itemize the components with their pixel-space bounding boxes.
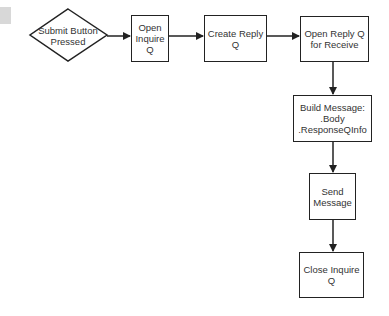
node-create-reply-q: Create Reply Q — [204, 15, 267, 62]
node-open-inquire-q: Open Inquire Q — [131, 15, 169, 62]
node-send-message: Send Message — [309, 173, 356, 220]
node-build-message: Build Message: .Body .ResponseQInfo — [293, 95, 372, 142]
node-open-reply-q-for-receive: Open Reply Q for Receive — [300, 16, 369, 62]
node-close-inquire-q: Close Inquire Q — [299, 252, 364, 298]
start-diamond-label: Submit Button Pressed — [36, 23, 100, 49]
